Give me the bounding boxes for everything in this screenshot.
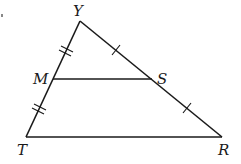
label-M: M (32, 70, 49, 88)
stray-mark (1, 14, 3, 17)
label-S: S (157, 70, 167, 88)
label-T: T (17, 141, 28, 159)
label-Y: Y (73, 2, 85, 20)
triangle-diagram: Y M S T R (0, 0, 241, 164)
label-R: R (217, 141, 229, 159)
